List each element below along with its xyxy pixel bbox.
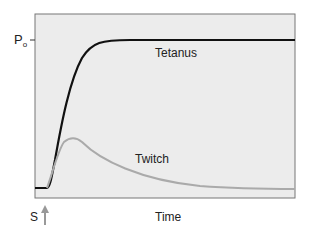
plot-area xyxy=(35,14,295,198)
arrow-up-icon xyxy=(41,205,49,213)
x-axis-label: Time xyxy=(155,210,181,224)
chart-plot xyxy=(0,0,312,238)
tetanus-label: Tetanus xyxy=(155,46,197,60)
stimulus-label: S xyxy=(30,210,38,224)
twitch-label: Twitch xyxy=(135,152,169,166)
po-label: Po xyxy=(14,32,27,47)
